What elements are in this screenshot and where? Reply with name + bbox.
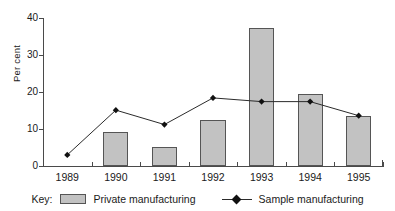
legend-line-label: Sample manufacturing [259,193,364,205]
x-axis-tick [383,162,384,167]
line-marker-diamond [307,99,313,105]
x-axis-tick-label: 1991 [140,171,188,183]
x-axis-tick [140,162,141,167]
legend-bar-swatch-icon [60,194,86,204]
x-axis-tick-label: 1992 [189,171,237,183]
x-axis-tick-label: 1994 [286,171,334,183]
x-axis-tick [92,162,93,167]
y-axis-tick-label: 10 [16,124,38,134]
x-axis-tick-label: 1989 [43,171,91,183]
legend-bar-label: Private manufacturing [93,193,195,205]
legend-line-marker-icon [222,194,252,204]
x-axis-line [43,166,383,167]
x-axis-tick-label: 1993 [238,171,286,183]
chart-legend: Key: Private manufacturing Sample manufa… [0,190,395,208]
x-axis-tick [286,162,287,167]
x-axis-tick [334,162,335,167]
line-series-sample-manufacturing [43,18,383,166]
y-axis-tick-labels: 010203040 [12,0,38,211]
x-axis-tick-label: 1990 [92,171,140,183]
legend-title: Key: [31,193,52,205]
x-axis-tick-label: 1995 [335,171,383,183]
chart-figure: Per cent 010203040 198919901991199219931… [0,0,395,211]
y-axis-tick-label: 40 [16,13,38,23]
y-axis-tick-label: 30 [16,50,38,60]
y-axis-tick-label: 0 [16,161,38,171]
line-marker-diamond [258,99,264,105]
y-axis-tick-label: 20 [16,87,38,97]
line-path [67,98,358,155]
plot-area [43,18,383,166]
line-marker-diamond [356,113,362,119]
line-marker-diamond [161,121,167,127]
x-axis-tick [237,162,238,167]
x-axis-tick [189,162,190,167]
line-marker-diamond [210,95,216,101]
